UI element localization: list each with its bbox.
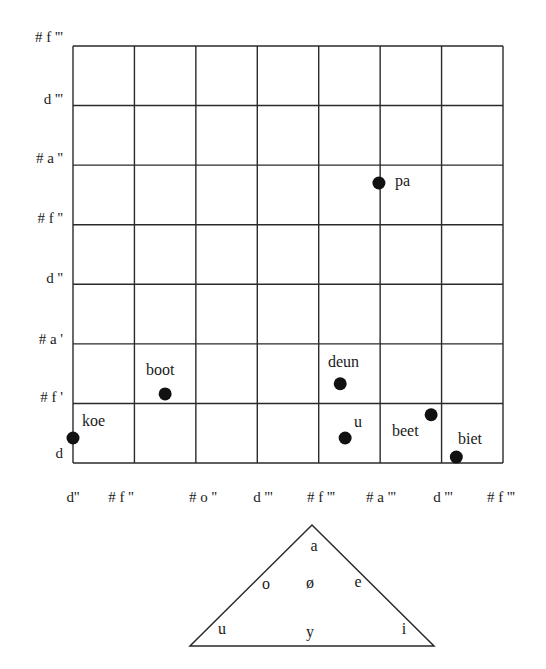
x-tick-label: # o '' xyxy=(178,490,228,505)
x-tick-label: d'' xyxy=(48,490,98,505)
y-tick-label: d ''' xyxy=(3,92,63,107)
x-tick-label: d ''' xyxy=(418,490,468,505)
vowel-e: e xyxy=(348,574,368,589)
y-tick-label: d '' xyxy=(3,271,63,286)
vowel-oe: ø xyxy=(300,575,320,590)
data-point-u xyxy=(339,431,352,444)
vowel-a: a xyxy=(304,538,324,553)
point-label-u: u xyxy=(354,414,362,429)
point-label-beet: beet xyxy=(392,423,419,438)
y-tick-label: d xyxy=(3,446,63,461)
x-tick-label: # f ''' xyxy=(296,490,346,505)
vowel-y: y xyxy=(300,624,320,639)
y-tick-label: # f '' xyxy=(3,211,63,226)
grid-lines xyxy=(73,46,503,463)
vowel-chart-figure: # f ''' d ''' # a '' # f '' d '' # a ' #… xyxy=(0,0,546,669)
y-tick-label: # f ''' xyxy=(3,30,63,45)
data-point-deun xyxy=(334,377,347,390)
point-label-deun: deun xyxy=(328,354,359,369)
data-point-biet xyxy=(450,451,463,464)
x-tick-label: d ''' xyxy=(238,490,288,505)
x-tick-label: # a ''' xyxy=(356,490,406,505)
vowel-o: o xyxy=(256,576,276,591)
x-tick-label: # f '' xyxy=(96,490,146,505)
point-label-pa: pa xyxy=(395,173,410,188)
data-point-koe xyxy=(67,431,80,444)
x-tick-label: # f ''' xyxy=(476,490,526,505)
y-tick-label: # a '' xyxy=(3,151,63,166)
point-label-koe: koe xyxy=(82,413,105,428)
y-tick-label: # a ' xyxy=(3,332,63,347)
vowel-u: u xyxy=(212,621,232,636)
data-points xyxy=(67,177,463,464)
data-point-boot xyxy=(159,387,172,400)
vowel-i: i xyxy=(394,621,414,636)
data-point-beet xyxy=(425,408,438,421)
data-point-pa xyxy=(372,177,385,190)
y-tick-label: # f ' xyxy=(3,390,63,405)
point-label-boot: boot xyxy=(146,362,174,377)
point-label-biet: biet xyxy=(458,431,482,446)
scatter-plot xyxy=(0,0,546,669)
